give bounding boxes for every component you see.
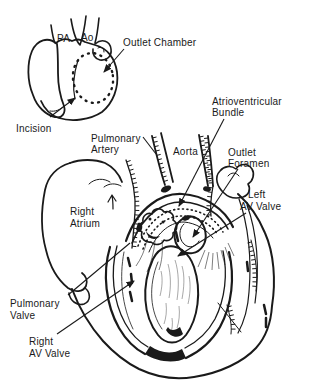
label-ao: Ao xyxy=(81,32,94,43)
pulmonary-artery-stub-right-edge xyxy=(161,133,173,182)
left-channel-line xyxy=(122,252,133,329)
pa-root-dark xyxy=(160,184,173,194)
inset-heart-body xyxy=(41,39,117,120)
label-pulmonary-artery-2: Artery xyxy=(91,144,119,155)
right-edge-dark-dashes xyxy=(264,305,266,327)
label-left-av-valve-2: AV Valve xyxy=(240,201,281,212)
flap-fine-texture xyxy=(160,260,190,333)
ventricle-right-wall-inner xyxy=(185,251,225,348)
valve-dot-2 xyxy=(162,221,165,224)
label-incision: Incision xyxy=(16,123,52,134)
inset-atrial-appendage xyxy=(28,40,64,118)
left-channel-dark-dashes xyxy=(128,258,132,301)
foramen-dark-left xyxy=(176,232,178,241)
label-right-atrium-2: Atrium xyxy=(70,218,100,229)
main-heart-drawing xyxy=(42,133,274,378)
flap-bottom-dark xyxy=(166,327,183,337)
figure-canvas: PA Ao Outlet Chamber Incision Pulmonary … xyxy=(0,0,315,391)
right-atrium-top-outline xyxy=(70,160,122,182)
right-lobe-dark-dash xyxy=(247,262,248,271)
ventricular-mass-outline xyxy=(72,194,274,378)
label-right-av-valve-2: AV Valve xyxy=(29,348,70,359)
septal-flap-echo xyxy=(152,262,162,329)
inset-heart-drawing xyxy=(28,16,124,120)
label-av-bundle-2: Bundle xyxy=(212,107,245,118)
label-aorta: Aorta xyxy=(173,146,198,157)
label-pulmonary-valve-2: Valve xyxy=(10,310,36,321)
pulmonary-artery-stub-left-edge-ticks xyxy=(153,137,168,182)
outlet-foramen-ring-inner xyxy=(180,224,199,247)
label-pa: PA xyxy=(57,33,70,44)
pulmonary-valve-leader xyxy=(68,243,130,295)
outlet-foramen-leader-arrow xyxy=(193,169,238,237)
inset-outlet-chamber-dashed-outline xyxy=(70,50,117,105)
septal-flap-oval xyxy=(145,246,198,342)
inset-ao-vessel-edge xyxy=(95,18,99,43)
ao-root-dark xyxy=(202,185,211,192)
av-bundle-leader-arrow xyxy=(179,119,224,206)
atrium-surface-arcs xyxy=(89,179,121,187)
inset-aortic-stump xyxy=(93,41,111,60)
label-outlet-foramen-2: Foramen xyxy=(228,158,269,169)
label-outlet-foramen-1: Outlet xyxy=(228,147,256,158)
ventricle-left-wall xyxy=(106,247,145,354)
valve-scallop-shadow xyxy=(146,231,160,239)
label-right-atrium-1: Right xyxy=(70,206,94,217)
valve-dot-1 xyxy=(149,218,152,221)
apex-dark-fold xyxy=(145,346,186,361)
atrium-small-up-arrow xyxy=(108,195,116,209)
label-pulmonary-valve-1: Pulmonary xyxy=(10,298,60,309)
label-av-bundle-1: Atrioventricular xyxy=(212,96,282,107)
label-left-av-valve-1: Left xyxy=(248,189,266,200)
label-outlet-chamber: Outlet Chamber xyxy=(123,37,197,48)
right-lobe-diagonal xyxy=(218,303,241,332)
label-right-av-valve-1: Right xyxy=(29,336,53,347)
label-pulmonary-artery-1: Pulmonary xyxy=(91,133,141,144)
heart-diagram: PA Ao Outlet Chamber Incision Pulmonary … xyxy=(0,0,315,391)
